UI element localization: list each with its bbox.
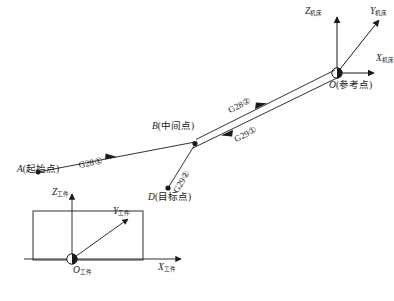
workpiece-x-subscript: 工件: [164, 266, 176, 272]
machine-x-subscript: 机床: [382, 57, 394, 63]
reference-point-label: O(参考点): [329, 81, 372, 91]
point-d-dot: [165, 185, 170, 190]
start-point-name: (起始点): [23, 164, 59, 174]
path-a-to-b: [36, 142, 196, 175]
path-b-to-o: [196, 70, 335, 140]
workpiece-coordinate-system: [24, 194, 181, 264]
intermediate-point-label: B(中间点): [152, 122, 194, 132]
workpiece-outline: [33, 211, 143, 260]
workpiece-z-axis-label: Z工件: [52, 188, 69, 198]
workpiece-origin-subscript: 工件: [80, 269, 92, 275]
machine-x-axis-label: X机床: [376, 54, 393, 64]
target-point-name: (目标点): [155, 192, 191, 202]
start-point-label: A(起始点): [17, 165, 59, 175]
machine-origin-fill: [337, 68, 342, 78]
workpiece-z-subscript: 工件: [57, 191, 69, 197]
g28-g29-diagram: Z机床 Y机床 X机床 O(参考点) A(起始点) B(中间点) D(目标点) …: [0, 0, 394, 301]
machine-y-axis-label: Y机床: [370, 7, 387, 17]
segment-bo-outbound: [196, 70, 335, 140]
workpiece-y-subscript: 工件: [118, 210, 130, 216]
reference-point-name: (参考点): [336, 80, 372, 90]
machine-coordinate-system: [332, 17, 379, 78]
machine-z-axis-label: Z机床: [305, 7, 322, 17]
segment-ab: [38, 142, 195, 172]
path-o-to-b: [192, 77, 339, 148]
segment-ob-return: [193, 77, 339, 148]
point-b-dot: [192, 141, 197, 146]
arrow-bo-outbound: [255, 102, 267, 109]
diagram-canvas: [0, 0, 394, 301]
intermediate-point-name: (中间点): [158, 121, 194, 131]
workpiece-origin-label: O工件: [73, 266, 91, 276]
machine-z-subscript: 机床: [310, 10, 322, 16]
target-point-label: D(目标点): [148, 193, 191, 203]
workpiece-y-axis-label: Y工件: [113, 207, 130, 217]
machine-y-axis: [337, 20, 379, 73]
workpiece-x-axis-label: X工件: [158, 263, 175, 273]
machine-y-subscript: 机床: [375, 10, 387, 16]
workpiece-y-axis: [72, 219, 128, 259]
